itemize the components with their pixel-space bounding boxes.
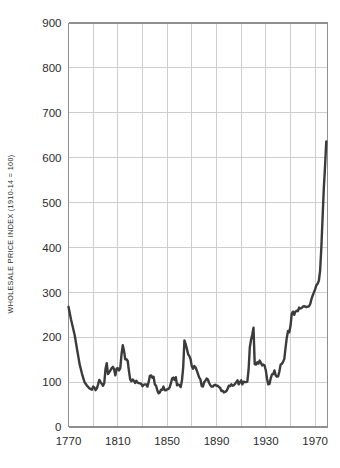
chart-plot: 0100200300400500600700800900 17701810185… — [0, 0, 340, 468]
y-gridlines — [69, 23, 328, 382]
x-tick-label: 1970 — [302, 435, 328, 447]
y-tick-label: 300 — [42, 287, 61, 299]
y-tick-labels: 0100200300400500600700800900 — [42, 17, 61, 433]
x-tick-label: 1850 — [154, 435, 180, 447]
y-tick-label: 400 — [42, 242, 61, 254]
x-tick-label: 1930 — [253, 435, 279, 447]
y-tick-label: 200 — [42, 331, 61, 343]
y-tick-label: 700 — [42, 107, 61, 119]
x-tick-labels: 177018101850189019301970 — [56, 435, 328, 447]
y-tick-label: 800 — [42, 62, 61, 74]
y-tick-label: 100 — [42, 376, 61, 388]
y-tick-label: 900 — [42, 17, 61, 29]
x-tick-label: 1810 — [105, 435, 131, 447]
y-tick-label: 0 — [55, 421, 61, 433]
y-tick-label: 500 — [42, 197, 61, 209]
y-tick-label: 600 — [42, 152, 61, 164]
chart-figure: WHOLESALE PRICE INDEX (1910-14 = 100) 01… — [0, 0, 340, 468]
data-series-line — [69, 142, 327, 394]
x-tick-label: 1770 — [56, 435, 82, 447]
x-tick-label: 1890 — [204, 435, 230, 447]
